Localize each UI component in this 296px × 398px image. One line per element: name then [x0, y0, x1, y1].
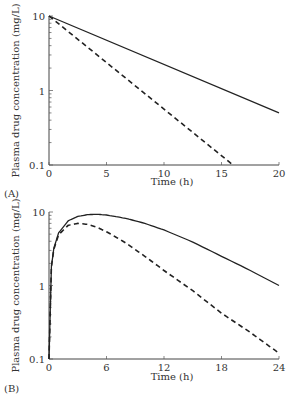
x-axis-label: Time (h): [151, 371, 194, 382]
x-tick-label: 0: [46, 168, 52, 179]
y-tick-label: 1: [39, 86, 45, 97]
panel-label: (B): [4, 383, 19, 394]
x-tick-label: 0: [46, 362, 52, 373]
series-dashed-line: [49, 16, 233, 165]
y-tick-label: 1: [39, 281, 45, 292]
x-axis-label: Time (h): [151, 176, 194, 187]
series-solid-line: [49, 16, 279, 113]
x-tick-label: 6: [103, 362, 109, 373]
x-tick-label: 5: [103, 168, 109, 179]
x-tick-label: 18: [215, 362, 228, 373]
chart-panel-a: 0.111005101520Time (h)Plasma drug concen…: [4, 3, 285, 199]
x-tick-label: 20: [273, 168, 286, 179]
figure: 0.111005101520Time (h)Plasma drug concen…: [0, 0, 296, 398]
chart-panel-b: 0.111006121824Time (h)Plasma drug concen…: [4, 198, 285, 394]
x-tick-label: 15: [215, 168, 228, 179]
series-dashed-line: [49, 223, 279, 359]
y-tick-label: 0.1: [29, 160, 45, 171]
panel-label: (A): [4, 188, 19, 199]
series-solid-line: [49, 214, 279, 359]
x-tick-label: 24: [273, 362, 286, 373]
y-tick-label: 10: [32, 207, 45, 218]
y-tick-label: 10: [32, 11, 45, 22]
y-axis-label: Plasma drug concentration (mg/L): [10, 3, 21, 177]
y-tick-label: 0.1: [29, 354, 45, 365]
y-axis-label: Plasma drug concentration (mg/L): [10, 198, 21, 372]
